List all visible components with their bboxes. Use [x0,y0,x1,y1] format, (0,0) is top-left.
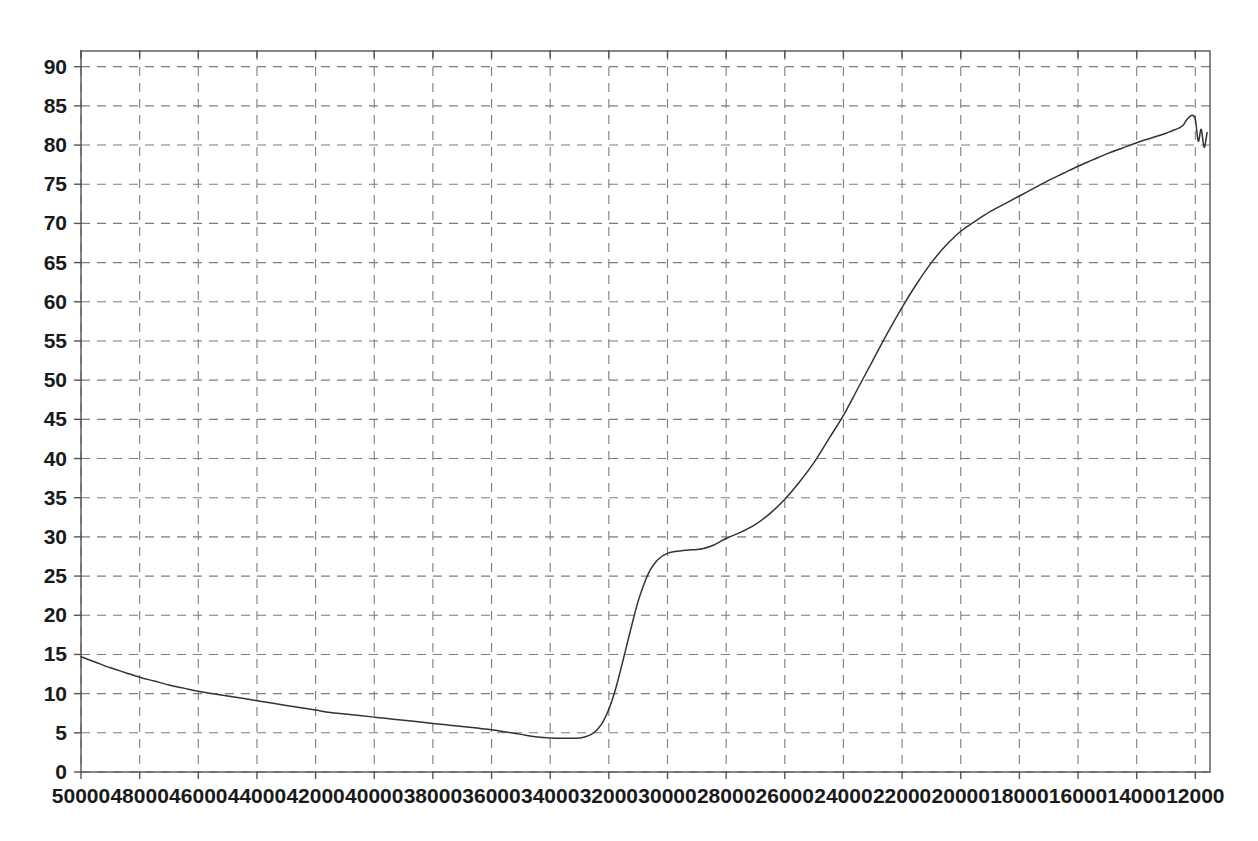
y-axis-tick-label: 65 [44,251,68,274]
x-axis-tick-label: 30000 [638,784,696,807]
x-axis-tick-label: 42000 [286,784,344,807]
x-axis-tick-label: 36000 [462,784,520,807]
y-axis-tick-label: 60 [44,290,67,313]
y-axis-tick-label: 0 [55,760,67,783]
x-axis-tick-label: 16000 [1049,784,1107,807]
x-axis-tick-label: 26000 [756,784,814,807]
x-axis-tick-label: 50000 [52,784,110,807]
data-series-layer [81,115,1207,738]
x-axis-tick-label: 48000 [110,784,168,807]
y-axis-tick-label: 25 [44,564,68,587]
y-axis-tick-labels: 051015202530354045505560657075808590 [44,55,68,783]
x-axis-tick-label: 34000 [521,784,579,807]
x-axis-tick-label: 24000 [814,784,872,807]
x-axis-tick-label: 32000 [580,784,638,807]
x-axis-tick-label: 14000 [1107,784,1165,807]
x-axis-tick-label: 20000 [932,784,990,807]
y-axis-tick-label: 30 [44,525,67,548]
y-axis-tick-label: 55 [44,329,68,352]
x-axis-tick-labels: 5000048000460004400042000400003800036000… [52,784,1225,807]
x-axis-tick-label: 46000 [169,784,227,807]
y-axis-tick-label: 40 [44,447,67,470]
y-axis-tick-label: 90 [44,55,67,78]
y-axis-tick-label: 20 [44,603,67,626]
spectrum-chart: 051015202530354045505560657075808590 500… [0,0,1258,841]
y-axis-tick-label: 45 [44,407,68,430]
y-axis-tick-label: 5 [55,721,67,744]
plot-frame [81,51,1210,772]
y-axis-tick-label: 75 [44,172,68,195]
y-axis-tick-label: 50 [44,368,67,391]
y-axis-tick-label: 10 [44,682,67,705]
grid-layer [81,51,1210,772]
x-axis-tick-label: 18000 [990,784,1048,807]
tick-marks [74,50,1195,779]
x-axis-tick-label: 40000 [345,784,403,807]
plot-border [81,51,1210,772]
x-axis-tick-label: 12000 [1166,784,1224,807]
y-axis-tick-label: 35 [44,486,68,509]
y-axis-tick-label: 15 [44,642,68,665]
x-axis-tick-label: 28000 [697,784,755,807]
y-axis-tick-label: 70 [44,211,67,234]
spectrum-trace [81,115,1207,738]
y-axis-tick-label: 80 [44,133,67,156]
spectrum-plot-svg: 051015202530354045505560657075808590 500… [0,0,1258,841]
x-axis-tick-label: 44000 [228,784,286,807]
y-axis-tick-label: 85 [44,94,68,117]
x-axis-tick-label: 22000 [873,784,931,807]
x-axis-tick-label: 38000 [404,784,462,807]
